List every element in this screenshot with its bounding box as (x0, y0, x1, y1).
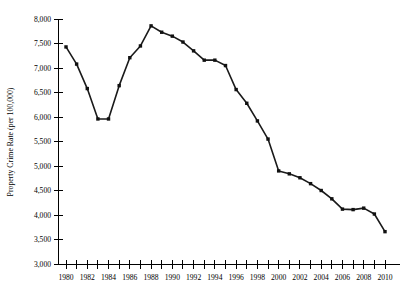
chart-background (0, 0, 414, 294)
data-point-marker (245, 102, 248, 105)
x-tick-label: 1996 (229, 273, 244, 282)
data-point-marker (160, 31, 163, 34)
data-point-marker (149, 24, 152, 27)
data-point-marker (213, 58, 216, 61)
data-point-marker (351, 208, 354, 211)
property-crime-rate-line-chart: Property Crime Rate (per 100,000) 3,0003… (0, 0, 414, 294)
data-point-marker (234, 88, 237, 91)
data-point-marker (203, 58, 206, 61)
data-point-marker (75, 62, 78, 65)
data-point-marker (320, 189, 323, 192)
y-tick-label: 8,000 (34, 15, 51, 24)
x-tick-label: 1982 (80, 273, 95, 282)
y-tick-label: 6,000 (34, 113, 51, 122)
y-tick-label: 6,500 (34, 88, 51, 97)
x-tick-label: 2008 (356, 273, 371, 282)
x-tick-label: 1984 (101, 273, 116, 282)
data-point-marker (341, 207, 344, 210)
x-tick-label: 2006 (335, 273, 350, 282)
y-tick-label: 7,500 (34, 39, 51, 48)
data-point-marker (64, 45, 67, 48)
data-point-marker (362, 206, 365, 209)
data-point-marker (139, 44, 142, 47)
data-point-marker (117, 84, 120, 87)
chart-figure: Property Crime Rate (per 100,000) 3,0003… (0, 0, 414, 294)
x-tick-label: 1986 (122, 273, 137, 282)
y-tick-label: 3,000 (34, 260, 51, 269)
x-tick-label: 2010 (377, 273, 392, 282)
x-tick-label: 2000 (271, 273, 286, 282)
data-point-marker (171, 34, 174, 37)
x-tick-label: 1980 (58, 273, 73, 282)
x-tick-label: 1994 (207, 273, 222, 282)
data-point-marker (128, 56, 131, 59)
data-point-marker (96, 117, 99, 120)
data-point-marker (309, 182, 312, 185)
y-tick-label: 4,500 (34, 186, 51, 195)
y-tick-label: 5,500 (34, 137, 51, 146)
data-point-marker (224, 64, 227, 67)
data-point-marker (383, 230, 386, 233)
x-tick-label: 1990 (165, 273, 180, 282)
x-tick-label: 1992 (186, 273, 201, 282)
data-point-marker (330, 197, 333, 200)
y-tick-label: 3,500 (34, 235, 51, 244)
data-point-marker (298, 176, 301, 179)
x-tick-label: 2004 (314, 273, 329, 282)
data-point-marker (288, 172, 291, 175)
data-point-marker (86, 87, 89, 90)
y-tick-label: 7,000 (34, 64, 51, 73)
data-point-marker (373, 212, 376, 215)
data-point-marker (256, 119, 259, 122)
data-point-marker (277, 169, 280, 172)
data-point-marker (181, 40, 184, 43)
x-tick-label: 1998 (250, 273, 265, 282)
y-tick-label: 5,000 (34, 162, 51, 171)
y-tick-label: 4,000 (34, 211, 51, 220)
y-axis-title: Property Crime Rate (per 100,000) (6, 87, 15, 196)
x-tick-label: 2002 (292, 273, 307, 282)
data-point-marker (107, 117, 110, 120)
data-point-marker (266, 137, 269, 140)
x-tick-label: 1988 (143, 273, 158, 282)
data-point-marker (192, 49, 195, 52)
